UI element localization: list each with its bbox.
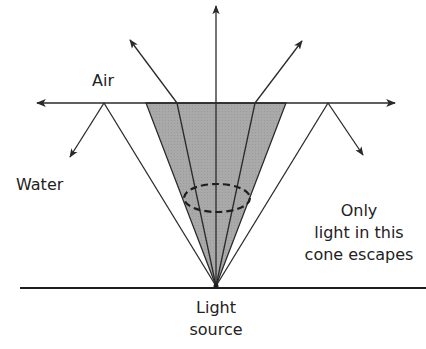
cone-note-line-3: cone escapes bbox=[296, 245, 422, 264]
reflected-ray-left bbox=[70, 103, 104, 157]
refracted-ray-right bbox=[255, 41, 302, 103]
refraction-diagram bbox=[0, 0, 426, 349]
cone-note-line-1: Only bbox=[296, 201, 422, 220]
label-water: Water bbox=[16, 175, 63, 194]
light-source-point bbox=[214, 284, 219, 289]
label-air: Air bbox=[92, 71, 114, 90]
refracted-ray-left bbox=[130, 40, 177, 103]
light-source-label-line-2: source bbox=[176, 320, 256, 339]
cone-note: Only light in this cone escapes bbox=[296, 201, 422, 264]
reflected-ray-right bbox=[328, 103, 363, 155]
cone-note-line-2: light in this bbox=[296, 223, 422, 242]
light-source-label: Light source bbox=[176, 298, 256, 339]
light-source-label-line-1: Light bbox=[176, 298, 256, 317]
